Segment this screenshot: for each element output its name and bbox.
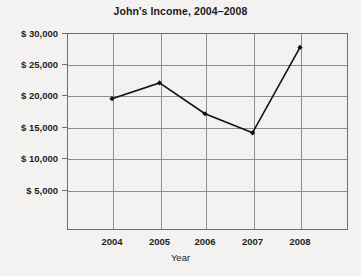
x-axis-title: Year bbox=[0, 252, 361, 263]
gridline-25000 bbox=[68, 65, 347, 66]
xtick-label-2006: 2006 bbox=[179, 236, 231, 247]
gridline-year-2004 bbox=[113, 34, 114, 229]
ytick-label-25000: $ 25,000 bbox=[0, 59, 58, 70]
gridline-year-2007 bbox=[254, 34, 255, 229]
ytick-mark-25000 bbox=[62, 64, 67, 65]
gridline-year-2008 bbox=[301, 34, 302, 229]
xtick-label-2005: 2005 bbox=[134, 236, 186, 247]
xtick-label-2004: 2004 bbox=[86, 236, 138, 247]
ytick-label-30000: $ 30,000 bbox=[0, 28, 58, 39]
gridline-year-2005 bbox=[161, 34, 162, 229]
ytick-mark-10000 bbox=[62, 158, 67, 159]
ytick-mark-20000 bbox=[62, 95, 67, 96]
gridline-15000 bbox=[68, 128, 347, 129]
ytick-label-20000: $ 20,000 bbox=[0, 90, 58, 101]
ytick-mark-15000 bbox=[62, 127, 67, 128]
ytick-mark-30000 bbox=[62, 33, 67, 34]
ytick-label-10000: $ 10,000 bbox=[0, 153, 58, 164]
gridline-10000 bbox=[68, 159, 347, 160]
ytick-mark-5000 bbox=[62, 190, 67, 191]
gridline-year-2006 bbox=[206, 34, 207, 229]
xtick-label-2008: 2008 bbox=[274, 236, 326, 247]
xtick-label-2007: 2007 bbox=[227, 236, 279, 247]
chart-title: John's Income, 2004–2008 bbox=[0, 5, 361, 17]
gridline-20000 bbox=[68, 96, 347, 97]
ytick-label-15000: $ 15,000 bbox=[0, 122, 58, 133]
income-line-chart: John's Income, 2004–2008 $ 30,000 $ 25,0… bbox=[0, 0, 361, 276]
ytick-label-5000: $ 5,000 bbox=[0, 185, 58, 196]
plot-area bbox=[67, 33, 348, 230]
gridline-5000 bbox=[68, 191, 347, 192]
